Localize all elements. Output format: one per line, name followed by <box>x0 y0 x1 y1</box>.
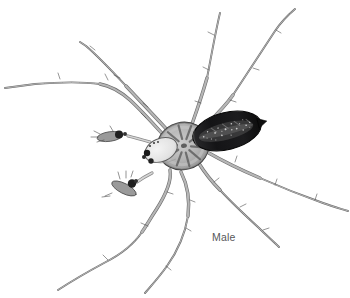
leg-bottom-right <box>198 162 279 247</box>
leg-left <box>5 83 168 141</box>
figure-label: Male <box>212 231 236 243</box>
pedipalps <box>91 126 152 199</box>
pedipalp-lower <box>102 171 152 199</box>
pedipalp-upper <box>91 126 150 143</box>
figure: Male <box>0 0 350 298</box>
spider-illustration <box>0 0 350 298</box>
leg-front-left-upper <box>80 42 170 133</box>
leg-right <box>207 152 348 211</box>
